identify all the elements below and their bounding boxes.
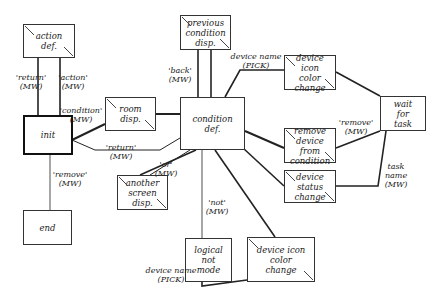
edge-cond-icon-bottom: [215, 150, 275, 237]
node-previous-condition-disp: previous condition disp.: [180, 15, 231, 50]
corner-mark-icon: [157, 199, 166, 208]
node-label: wait for task: [394, 99, 412, 129]
edge-label-or: 'or' (MW): [153, 160, 179, 178]
node-condition-def: condition def.: [180, 97, 245, 150]
corner-mark-icon: [145, 120, 154, 129]
node-end: end: [23, 210, 72, 245]
node-action-def: action def.: [23, 24, 75, 58]
corner-mark-icon: [286, 57, 295, 66]
corner-mark-icon: [64, 47, 73, 56]
edge-task-name: [336, 131, 386, 186]
node-label: action def.: [36, 31, 63, 51]
corner-mark-icon: [107, 99, 116, 108]
edge-label-remove-wait: 'remove' (MW): [337, 118, 375, 136]
node-device-status-change: device status change: [284, 170, 336, 203]
corner-mark-icon: [325, 192, 334, 201]
node-device-icon-color-change-top: device icon color change: [284, 55, 336, 90]
edge-label-condition: 'condition' (MW): [58, 106, 104, 124]
node-label: device icon color change: [257, 245, 306, 275]
corner-mark-icon: [119, 177, 128, 186]
edge-label-remove-end: 'remove' (MW): [51, 170, 89, 188]
edge-label-return-action: 'return' (MW): [14, 73, 48, 91]
node-label: end: [40, 223, 56, 233]
node-another-screen-disp: another screen disp.: [117, 175, 168, 210]
node-label: device icon color change: [294, 53, 325, 93]
node-remove-device-from-condition: remove device from condition: [284, 128, 336, 163]
edge-label-action: 'action' (MW): [56, 73, 90, 91]
corner-mark-icon: [325, 152, 334, 161]
edge-cond-remove: [245, 131, 284, 148]
node-label: init: [41, 130, 55, 140]
edge-cond-status: [243, 148, 284, 186]
corner-mark-icon: [220, 39, 229, 48]
node-label: device status change: [294, 172, 325, 202]
node-label: condition def.: [192, 114, 232, 134]
edge-icon-wait: [336, 72, 380, 96]
edge-label-not: 'not' (MW): [203, 198, 231, 216]
edge-condition: [72, 124, 105, 140]
edge-label-return-condition: 'return' (MW): [103, 143, 139, 161]
node-wait-for-task: wait for task: [380, 96, 426, 131]
corner-mark-icon: [182, 17, 191, 26]
corner-mark-icon: [249, 239, 258, 248]
node-device-icon-color-change-bottom: device icon color change: [247, 237, 315, 282]
corner-mark-icon: [325, 79, 334, 88]
node-label: another screen disp.: [126, 178, 160, 208]
node-room-disp: room disp.: [105, 97, 156, 131]
edge-label-back: 'back' (MW): [165, 66, 195, 84]
corner-mark-icon: [304, 271, 313, 280]
edge-label-device-name-top: device name (PICK): [226, 52, 286, 70]
corner-mark-icon: [25, 26, 34, 35]
edge-label-device-name-bottom: device name (PICK): [141, 266, 201, 284]
corner-mark-icon: [286, 130, 295, 139]
node-label: room disp.: [119, 104, 141, 124]
corner-mark-icon: [286, 172, 295, 181]
edge-device-name-top: [225, 70, 284, 97]
edge-label-task-name: task name (MW): [382, 162, 410, 189]
